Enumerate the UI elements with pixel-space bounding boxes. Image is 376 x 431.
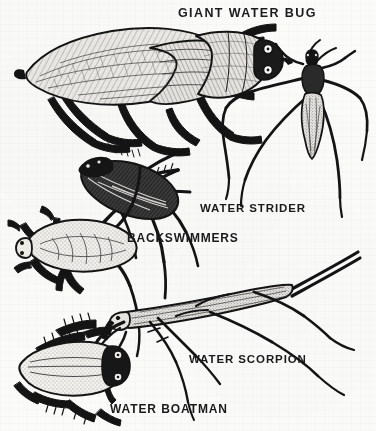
label-water-boatman: WATER BOATMAN	[110, 402, 228, 416]
label-water-scorpion: WATER SCORPION	[189, 353, 307, 365]
insect-illustration-plate: GIANT WATER BUG WATER STRIDER BACKSWIMME…	[0, 0, 376, 431]
illustration-artwork	[0, 0, 376, 431]
label-giant-water-bug: GIANT WATER BUG	[178, 6, 317, 20]
specimen-water-scorpion	[82, 252, 360, 420]
label-water-strider: WATER STRIDER	[200, 202, 306, 214]
label-backswimmers: BACKSWIMMERS	[127, 231, 239, 245]
